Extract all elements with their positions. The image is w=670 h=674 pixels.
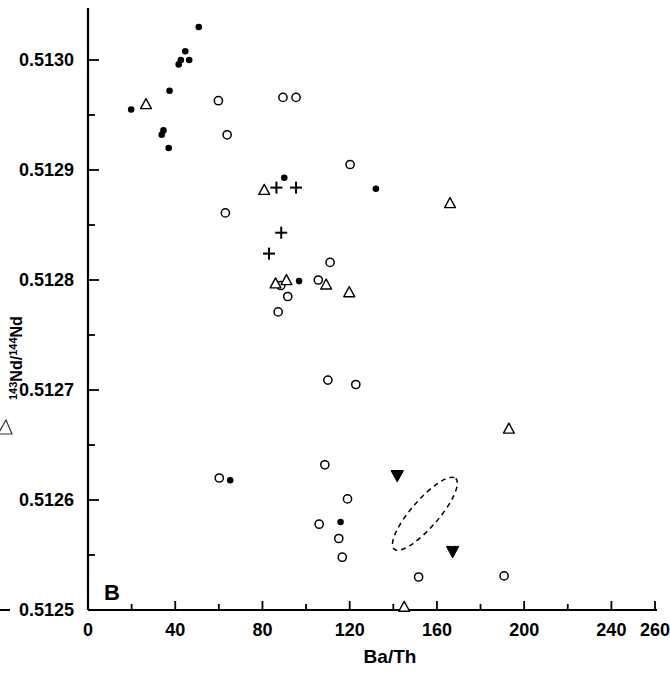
marker-open-circle (352, 380, 360, 388)
marker-filled-circle (182, 48, 189, 55)
marker-open-circle (284, 292, 292, 300)
y-axis-label-sup-143: 143 (7, 382, 19, 400)
x-tick-label: 120 (335, 620, 365, 640)
y-axis-label-end: Nd (8, 316, 25, 337)
marker-filled-circle (178, 57, 185, 64)
marker-filled-down-triangle (446, 546, 458, 557)
annotations-layer (384, 469, 466, 558)
marker-open-triangle (445, 198, 456, 208)
marker-open-circle (274, 308, 282, 316)
marker-plus (270, 182, 282, 194)
marker-open-circle (215, 474, 223, 482)
y-tick-label: 0.5126 (19, 490, 74, 510)
y-tick-label: 0.5125 (19, 600, 74, 620)
marker-filled-circle (281, 174, 288, 181)
marker-open-circle (315, 520, 323, 528)
y-tick-label: 0.5127 (19, 380, 74, 400)
series-filled-down-triangle (391, 471, 459, 558)
marker-filled-circle (186, 57, 193, 64)
figure-panel-b: 0.51250.51260.51270.51280.51290.5130 040… (0, 0, 670, 674)
marker-open-circle (326, 258, 334, 266)
marker-open-triangle (503, 423, 514, 433)
marker-open-circle (338, 553, 346, 561)
marker-open-triangle (281, 275, 292, 285)
marker-open-triangle (399, 601, 410, 611)
x-tick-label: 0 (83, 620, 93, 640)
series-open-circle (214, 93, 508, 581)
marker-open-circle (500, 572, 508, 580)
x-tick-label: 200 (509, 620, 539, 640)
marker-open-circle (324, 376, 332, 384)
marker-filled-circle (165, 145, 172, 152)
axis-lines (88, 8, 657, 610)
marker-open-triangle (344, 287, 355, 297)
marker-filled-circle (373, 185, 380, 192)
marker-open-circle (335, 534, 343, 542)
marker-open-circle (279, 93, 287, 101)
y-tick-label: 0.5128 (19, 270, 74, 290)
marker-filled-circle (128, 106, 135, 113)
marker-filled-circle (296, 278, 303, 285)
marker-open-circle (223, 131, 231, 139)
marker-plus (263, 248, 275, 260)
y-tick-label: 0.5129 (19, 160, 74, 180)
panel-label: B (104, 580, 120, 605)
marker-open-circle (292, 93, 300, 101)
marker-open-circle (221, 209, 229, 217)
marker-plus (290, 182, 302, 194)
marker-open-circle (321, 461, 329, 469)
marker-open-circle (314, 276, 322, 284)
marker-filled-circle (227, 477, 234, 484)
marker-filled-circle (160, 127, 167, 134)
y-axis-ticks (88, 60, 99, 610)
y-axis-label-mid: Nd/ (8, 355, 25, 381)
marker-filled-circle (195, 24, 202, 31)
data-markers (128, 24, 514, 612)
series-filled-circle (128, 24, 379, 526)
x-axis-tick-labels: 04080120160200240260 (83, 620, 670, 640)
y-axis-label-sup-144: 144 (7, 337, 19, 356)
y-axis-tick-labels: 0.51250.51260.51270.51280.51290.5130 (19, 50, 74, 620)
marker-plus (275, 227, 287, 239)
y-tick-label: 0.5130 (19, 50, 74, 70)
x-axis-ticks (88, 601, 655, 610)
marker-open-circle (415, 573, 423, 581)
x-tick-label: 160 (422, 620, 452, 640)
x-tick-label: 260 (640, 620, 670, 640)
series-open-triangle (141, 99, 515, 612)
marker-filled-circle (166, 88, 173, 95)
x-axis-label: Ba/Th (364, 646, 417, 667)
marker-open-triangle (259, 184, 270, 194)
marker-open-circle (346, 160, 354, 168)
marker-filled-down-triangle (391, 471, 403, 482)
marker-open-circle (214, 97, 222, 105)
marker-filled-circle (337, 519, 344, 526)
scatter-plot: 0.51250.51260.51270.51280.51290.5130 040… (0, 0, 670, 674)
x-tick-label: 40 (165, 620, 185, 640)
edge-artifacts (0, 420, 12, 610)
x-tick-label: 80 (252, 620, 272, 640)
x-tick-label: 240 (596, 620, 626, 640)
annotation-dashed-ellipse (384, 469, 466, 558)
marker-open-triangle (141, 99, 152, 109)
marker-open-circle (343, 495, 351, 503)
